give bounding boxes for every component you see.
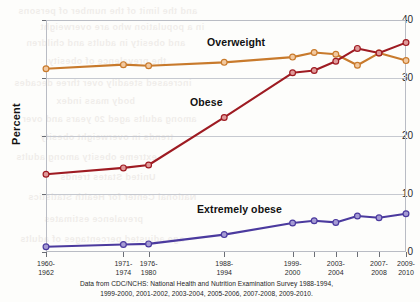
x-tick-label: 1976-1980 [126,260,172,277]
data-point-marker [43,244,49,250]
series-label-overweight: Overweight [207,36,265,48]
x-tick-mark [46,252,47,257]
series-label-extremely-obese: Extremely obese [197,203,282,215]
data-point-marker [333,51,339,57]
data-point-marker [221,115,227,121]
data-point-marker [333,220,339,226]
data-point-marker [121,242,127,248]
x-tick-mark [406,252,407,257]
data-point-marker [221,232,227,238]
data-point-marker [355,62,361,68]
data-point-marker [376,215,382,221]
x-tick-label: 1988-1994 [201,260,247,277]
series-line-extremely-obese [46,214,406,247]
data-point-marker [290,70,296,76]
data-point-marker [403,58,409,64]
x-tick-label: 2003-2004 [313,260,359,277]
data-point-marker [403,211,409,217]
data-point-marker [290,54,296,60]
data-point-marker [146,63,152,69]
data-point-marker [355,46,361,52]
source-note-line-2: 1999-2000, 2001-2002, 2003-2004, 2005-20… [0,289,413,299]
data-point-marker [43,66,49,72]
data-point-marker [403,40,409,46]
source-note: Data from CDC/NCHS: National Health and … [0,279,413,298]
data-point-marker [355,213,361,219]
data-point-marker [311,50,317,56]
data-point-marker [221,59,227,65]
x-tick-mark [123,252,124,257]
data-point-marker [376,50,382,56]
x-tick-mark [357,252,358,257]
x-tick-mark [293,252,294,257]
data-point-marker [311,68,317,74]
x-tick-mark [379,252,380,257]
data-point-marker [333,58,339,64]
x-tick-label: 2009-2010 [383,260,420,277]
data-point-marker [43,171,49,177]
data-point-marker [146,162,152,168]
data-point-marker [146,241,152,247]
x-tick-mark [314,252,315,257]
data-point-marker [290,220,296,226]
series-label-obese: Obese [190,96,223,108]
x-tick-mark [149,252,150,257]
data-point-marker [311,218,317,224]
source-note-line-1: Data from CDC/NCHS: National Health and … [0,279,413,289]
x-tick-label: 1999-2000 [270,260,316,277]
x-tick-label: 1960-1962 [23,260,69,277]
data-point-marker [121,62,127,68]
x-tick-mark [336,252,337,257]
data-point-marker [121,165,127,171]
x-tick-mark [224,252,225,257]
